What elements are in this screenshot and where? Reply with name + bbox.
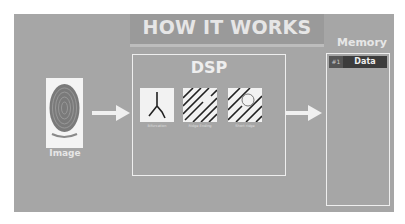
bifurcation-icon — [140, 88, 174, 122]
title-bar: HOW IT WORKS — [130, 14, 324, 47]
short-ridge-icon — [228, 88, 262, 122]
diagram-title: HOW IT WORKS — [130, 16, 324, 38]
feature-label: Bifurcation — [135, 124, 179, 128]
memory-row: #1 Data — [329, 56, 387, 68]
diagram-panel: HOW IT WORKS Image DSP Bifurcation — [14, 14, 394, 212]
dsp-label: DSP — [133, 58, 285, 77]
dsp-box: DSP Bifurcation Ridge Ending Short ridge — [132, 54, 286, 176]
fingerprint-icon — [46, 78, 83, 148]
image-label: Image — [40, 148, 90, 158]
feature-label: Ridge Ending — [178, 124, 222, 128]
memory-row-index: #1 — [329, 56, 343, 68]
memory-label: Memory — [332, 36, 392, 49]
ridge-ending-icon — [183, 88, 217, 122]
feature-label: Short ridge — [223, 124, 267, 128]
arrow-right-icon — [286, 105, 322, 121]
memory-row-value: Data — [343, 56, 387, 68]
memory-box: #1 Data — [326, 53, 390, 206]
arrow-right-icon — [92, 105, 130, 121]
